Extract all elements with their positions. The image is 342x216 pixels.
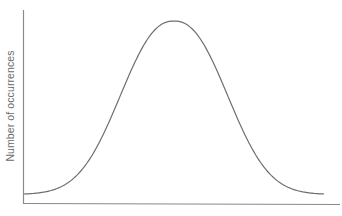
distribution-curve <box>24 21 324 194</box>
x-axis <box>23 204 340 205</box>
bell-curve-chart: Number of occurrences <box>0 0 342 216</box>
chart-canvas <box>0 0 342 216</box>
y-axis-label: Number of occurrences <box>4 50 16 161</box>
